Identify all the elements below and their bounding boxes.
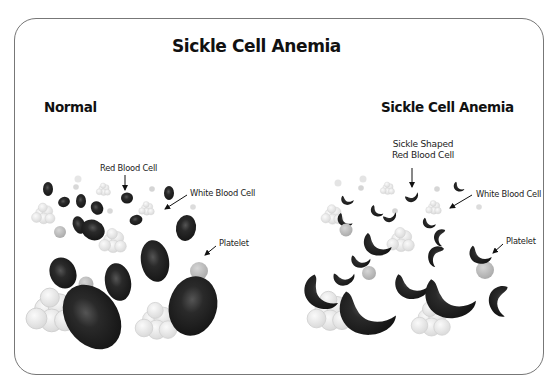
blood-cell-illustration <box>0 0 553 391</box>
sickle-panel-art <box>301 168 520 342</box>
normal-panel-art <box>26 175 224 361</box>
